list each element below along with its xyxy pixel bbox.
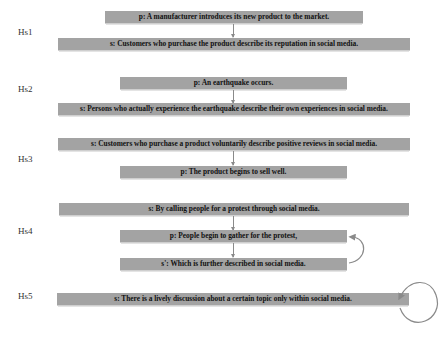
hs5-loop-arrow [400,282,437,322]
hs4-loop-arrow [349,237,364,263]
feedback-arrows [0,0,448,337]
